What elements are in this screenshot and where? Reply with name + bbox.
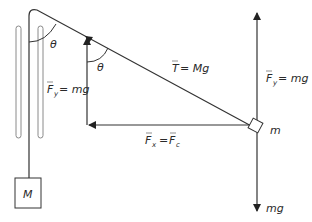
svg-text:=: = xyxy=(159,134,168,147)
force-diagram: M θ θ m T = Mg F y = mg F y = mg F x = xyxy=(0,0,312,222)
svg-text:= mg: = mg xyxy=(278,72,308,85)
mass-small-label: m xyxy=(270,124,281,137)
svg-text:x: x xyxy=(151,141,157,149)
svg-text:= mg: = mg xyxy=(59,83,89,96)
tube-left xyxy=(16,26,21,138)
fx-label: F x = F c xyxy=(145,133,180,149)
tube-right xyxy=(38,26,43,138)
svg-text:= Mg: = Mg xyxy=(180,62,209,75)
weight-label: mg xyxy=(266,202,284,215)
fy-right-label: F y = mg xyxy=(266,71,308,87)
svg-text:T: T xyxy=(172,62,180,75)
fy-left-label: F y = mg xyxy=(47,82,89,98)
svg-text:F: F xyxy=(145,134,152,147)
tension-label: T = Mg xyxy=(172,61,209,75)
mass-large-label: M xyxy=(23,188,33,201)
svg-text:F: F xyxy=(47,83,54,96)
theta-arrow-label: θ xyxy=(97,61,104,74)
svg-text:F: F xyxy=(266,72,273,85)
mass-block-small xyxy=(248,118,263,133)
angle-arc-arrow xyxy=(87,48,108,62)
svg-text:c: c xyxy=(176,141,180,149)
theta-top-label: θ xyxy=(50,38,57,51)
svg-text:F: F xyxy=(169,134,176,147)
